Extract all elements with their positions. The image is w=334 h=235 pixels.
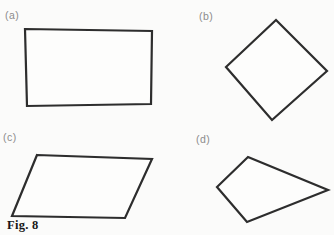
parallelogram-shape-c	[12, 155, 152, 218]
shape-label-a: (a)	[5, 9, 19, 21]
kite-quadrilateral-shape-d	[217, 157, 328, 222]
shape-label-c: (c)	[3, 131, 17, 143]
figure-caption: Fig. 8	[7, 218, 39, 233]
rotated-square-shape-b	[226, 20, 327, 120]
rectangle-shape-a	[25, 29, 152, 106]
shape-label-b: (b)	[199, 10, 213, 22]
shape-label-d: (d)	[196, 133, 210, 145]
shapes-canvas	[0, 0, 334, 235]
figure-page: symmetry in the shapes of Fig. 8. (a) (b…	[0, 0, 334, 235]
